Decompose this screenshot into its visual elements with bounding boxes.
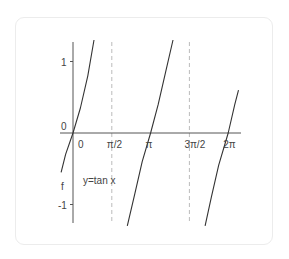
- y-tick-label: 1: [61, 57, 67, 68]
- tan-plot: 0π/2π3π/22π 10-1 y=tan x f: [0, 0, 289, 259]
- y-tick-label: 0: [61, 121, 67, 132]
- x-tick-label: π/2: [107, 139, 123, 150]
- curve-branch: [205, 90, 238, 226]
- y-axis-label: f: [61, 181, 64, 192]
- x-tick-label: 0: [78, 139, 84, 150]
- y-tick-label: -1: [58, 200, 67, 211]
- x-tick-label: 3π/2: [184, 139, 205, 150]
- x-tick-label: 2π: [223, 139, 236, 150]
- x-tick-labels: 0π/2π3π/22π: [78, 139, 236, 150]
- curve-annotation: y=tan x: [83, 175, 116, 186]
- x-tick-label: π: [146, 139, 153, 150]
